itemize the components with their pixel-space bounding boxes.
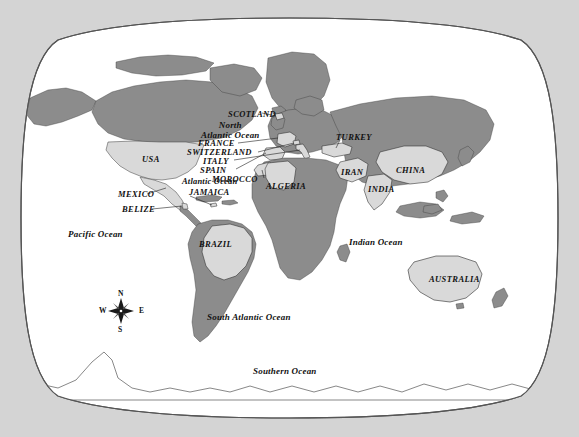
world-map-svg (0, 0, 579, 437)
land-belize (182, 203, 188, 209)
land-switzerland (293, 140, 300, 145)
world-map: SCOTLAND FRANCE SWITZERLAND ITALY SPAIN … (0, 0, 579, 437)
land-tasmania (456, 303, 464, 309)
land-jamaica (210, 203, 217, 207)
